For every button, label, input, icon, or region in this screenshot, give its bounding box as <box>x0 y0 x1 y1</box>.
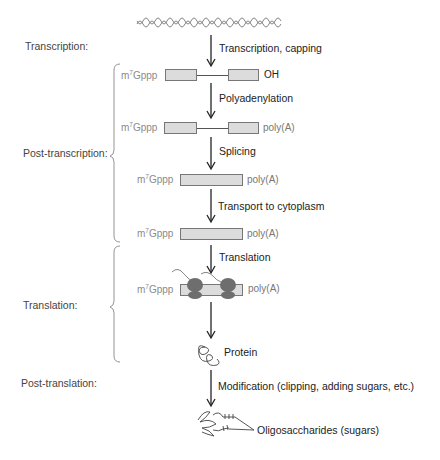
protein-label: Protein <box>224 346 257 358</box>
stage-post-transcription: Post-transcription: <box>23 147 108 159</box>
cap-label: m7Gppp <box>137 227 173 239</box>
cap-label: m7Gppp <box>121 69 157 81</box>
oligosaccharides-label: Oligosaccharides (sugars) <box>257 424 379 436</box>
brace-icons <box>110 64 120 362</box>
cap-label: m7Gppp <box>137 283 173 295</box>
stage-post-translation: Post-translation: <box>21 377 97 389</box>
exon-box <box>228 69 259 81</box>
arrow-down-icon <box>207 302 215 338</box>
oh-end-label: OH <box>264 69 279 80</box>
glycoprotein-icon <box>198 412 254 436</box>
exon-box <box>165 69 197 81</box>
exon-box <box>164 122 197 134</box>
step-transport: Transport to cytoplasm <box>218 200 324 212</box>
mrna-box <box>180 174 243 186</box>
mrna-box <box>180 228 243 240</box>
step-splicing: Splicing <box>219 145 256 157</box>
intron-line <box>197 128 228 129</box>
post-transcription-brace-icon <box>110 64 120 242</box>
translation-brace-icon <box>110 246 120 362</box>
arrow-down-icon <box>207 370 215 406</box>
polya-label: poly(A) <box>247 174 279 185</box>
arrow-down-icon <box>207 83 215 118</box>
arrow-down-icon <box>207 35 215 66</box>
stage-translation: Translation: <box>23 299 77 311</box>
step-transcription-capping: Transcription, capping <box>219 42 322 54</box>
dna-helix-icon <box>137 18 281 27</box>
polya-label: poly(A) <box>263 122 295 133</box>
arrow-down-icon <box>207 245 215 273</box>
polya-label: poly(A) <box>247 228 279 239</box>
arrow-down-icon <box>207 137 215 169</box>
cap-label: m7Gppp <box>137 173 173 185</box>
stage-transcription: Transcription: <box>25 40 88 52</box>
intron-line <box>197 75 228 76</box>
step-polyadenylation: Polyadenylation <box>219 92 293 104</box>
exon-box <box>228 122 259 134</box>
polya-label: poly(A) <box>248 283 280 294</box>
ribosome-icons <box>172 269 236 299</box>
arrow-down-icon <box>207 189 215 222</box>
step-modification: Modification (clipping, adding sugars, e… <box>218 380 414 392</box>
protein-icon <box>199 346 219 366</box>
step-translation: Translation <box>219 251 271 263</box>
cap-label: m7Gppp <box>121 121 157 133</box>
